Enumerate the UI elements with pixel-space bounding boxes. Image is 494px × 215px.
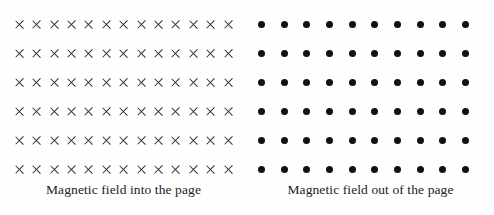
cross-icon	[49, 106, 60, 117]
dot-icon	[349, 108, 356, 115]
cross-icon	[49, 19, 60, 30]
dot-icon	[394, 108, 401, 115]
cross-icon	[136, 106, 147, 117]
dot-icon	[462, 108, 469, 115]
cross-icon	[136, 135, 147, 146]
field-marker-row	[258, 68, 469, 97]
dot-icon	[303, 137, 310, 144]
cross-icon	[31, 135, 42, 146]
dot-icon	[371, 21, 378, 28]
cross-icon	[101, 77, 112, 88]
dot-icon	[258, 108, 265, 115]
dot-icon	[349, 137, 356, 144]
dot-icon	[371, 79, 378, 86]
cross-icon	[223, 19, 234, 30]
dot-icon	[326, 108, 333, 115]
cross-icon	[223, 164, 234, 175]
dot-icon	[417, 166, 424, 173]
cross-icon	[66, 48, 77, 59]
dot-icon	[281, 21, 288, 28]
cross-icon	[153, 164, 164, 175]
field-marker-row	[258, 97, 469, 126]
cross-icon	[84, 77, 95, 88]
cross-icon	[153, 135, 164, 146]
field-marker-row	[258, 155, 469, 184]
dot-icon	[371, 108, 378, 115]
dot-icon	[326, 50, 333, 57]
dot-icon	[439, 79, 446, 86]
field-marker-row	[14, 126, 234, 155]
dot-icon	[439, 166, 446, 173]
cross-icon	[84, 164, 95, 175]
cross-icon	[188, 164, 199, 175]
cross-icon	[118, 106, 129, 117]
cross-icon	[101, 19, 112, 30]
cross-icon	[223, 77, 234, 88]
cross-icon	[66, 106, 77, 117]
cross-icon	[118, 135, 129, 146]
field-marker-row	[258, 126, 469, 155]
cross-icon	[223, 48, 234, 59]
dot-icon	[281, 79, 288, 86]
cross-icon	[118, 19, 129, 30]
cross-icon	[101, 106, 112, 117]
dot-icon	[258, 137, 265, 144]
dot-icon	[439, 108, 446, 115]
cross-icon	[118, 48, 129, 59]
field-marker-row	[258, 39, 469, 68]
cross-icon	[84, 106, 95, 117]
dot-icon	[371, 137, 378, 144]
cross-icon	[188, 77, 199, 88]
cross-icon	[171, 19, 182, 30]
cross-icon	[153, 48, 164, 59]
dot-icon	[281, 137, 288, 144]
cross-icon	[223, 135, 234, 146]
cross-icon	[101, 48, 112, 59]
dot-icon	[303, 50, 310, 57]
dot-icon	[371, 50, 378, 57]
dot-icon	[326, 79, 333, 86]
cross-icon	[31, 48, 42, 59]
cross-icon	[66, 164, 77, 175]
dot-icon	[394, 79, 401, 86]
cross-icon	[49, 48, 60, 59]
cross-icon	[188, 48, 199, 59]
cross-icon	[205, 48, 216, 59]
caption-field-out-of-page: Magnetic field out of the page	[247, 182, 494, 198]
dot-icon	[281, 166, 288, 173]
dot-icon	[349, 21, 356, 28]
dot-icon	[417, 137, 424, 144]
cross-icon	[205, 19, 216, 30]
dot-icon	[303, 108, 310, 115]
cross-icon	[101, 164, 112, 175]
field-marker-row	[258, 10, 469, 39]
dot-icon	[303, 21, 310, 28]
dot-icon	[326, 137, 333, 144]
dot-icon	[417, 108, 424, 115]
dot-icon	[394, 50, 401, 57]
panel-field-out-of-page: Magnetic field out of the page	[247, 0, 494, 215]
dot-icon	[258, 21, 265, 28]
cross-icon	[153, 106, 164, 117]
cross-icon	[84, 19, 95, 30]
cross-icon	[66, 135, 77, 146]
dot-icon	[349, 166, 356, 173]
cross-icon	[14, 106, 25, 117]
cross-icon	[84, 48, 95, 59]
cross-icon	[171, 77, 182, 88]
cross-icon	[84, 135, 95, 146]
dot-icon	[303, 79, 310, 86]
field-marker-row	[14, 155, 234, 184]
dot-icon	[417, 50, 424, 57]
cross-marker-grid	[14, 10, 234, 184]
dot-icon	[462, 21, 469, 28]
field-marker-row	[14, 97, 234, 126]
cross-icon	[66, 19, 77, 30]
dot-icon	[349, 79, 356, 86]
dot-icon	[394, 21, 401, 28]
dot-icon	[394, 166, 401, 173]
dot-icon	[462, 50, 469, 57]
dot-icon	[439, 21, 446, 28]
field-marker-row	[14, 68, 234, 97]
cross-icon	[153, 77, 164, 88]
